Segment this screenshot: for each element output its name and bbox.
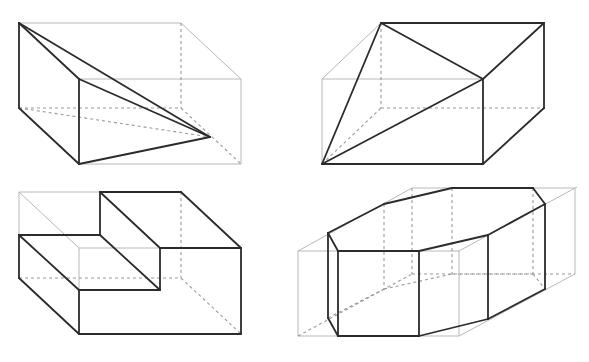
solid-edge (483, 108, 544, 164)
top-face-edge (488, 204, 545, 235)
solid-edge (79, 137, 210, 164)
hidden-edge (328, 289, 384, 318)
visible-box-edge (19, 192, 79, 248)
solid-edge (100, 235, 160, 290)
solid-edge (322, 79, 483, 164)
top-face-edge (419, 235, 488, 251)
hidden-edge (181, 108, 241, 164)
solid-edge (19, 108, 79, 164)
figure-stepped-block (19, 192, 241, 334)
hidden-edge (181, 278, 241, 334)
solid-edge (100, 192, 160, 248)
solid-edge (19, 235, 79, 290)
top-face-edge (328, 204, 384, 233)
solid-edge (19, 278, 79, 334)
hidden-edge (533, 274, 545, 289)
top-face-edge (533, 188, 545, 204)
diagram-canvas (0, 0, 589, 362)
top-face-edge (328, 233, 338, 251)
solid-edge (381, 23, 483, 79)
solid-edge (181, 192, 241, 248)
hidden-edge (298, 274, 412, 336)
bottom-face-edge (328, 318, 338, 336)
bottom-face-edge (488, 289, 545, 319)
bounding-box-edge (459, 274, 575, 336)
visible-box-edge (322, 23, 381, 79)
hidden-edge (322, 108, 381, 164)
bottom-face-edge (419, 319, 488, 336)
figure-tetrahedron-in-box-b (322, 23, 544, 164)
figure-octagonal-prism (298, 187, 577, 336)
solid-edge (483, 23, 544, 79)
top-face-edge (384, 188, 452, 204)
figure-tetrahedron-in-box-a (19, 23, 241, 164)
visible-box-edge (181, 23, 241, 79)
solid-edge (322, 23, 381, 164)
solid-edge (19, 23, 79, 79)
hidden-edge (19, 108, 210, 137)
hidden-edge (384, 274, 452, 289)
